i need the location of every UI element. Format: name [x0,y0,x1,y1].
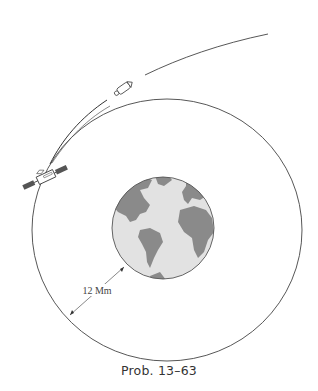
trajectory-inner [52,106,110,163]
trajectory-lower [50,100,107,164]
earth-globe [112,175,214,282]
satellite-icon [20,159,69,191]
figure-caption: Prob. 13–63 [0,363,318,378]
rocket-icon [113,79,134,97]
orbit-diagram: 12 Mm Prob. 13–63 [0,0,318,391]
dimension-12mm: 12 Mm [70,267,124,315]
dimension-label: 12 Mm [82,285,111,296]
trajectory-upper [145,34,268,75]
